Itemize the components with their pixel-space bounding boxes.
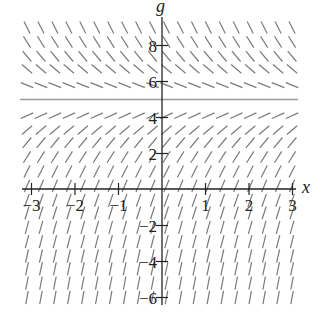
slope-segment — [192, 180, 197, 192]
slope-segment — [235, 277, 238, 290]
slope-segment — [80, 180, 85, 192]
slope-segment — [68, 291, 71, 304]
slope-segment — [233, 166, 239, 178]
slope-segment — [40, 277, 43, 290]
slope-segment — [106, 65, 116, 74]
slope-segment — [202, 113, 214, 119]
slope-segment — [53, 235, 56, 248]
slope-segment — [262, 207, 266, 220]
slope-segment — [122, 22, 128, 34]
slope-segment — [51, 138, 60, 148]
slope-segment — [275, 166, 281, 178]
slope-segment — [52, 22, 58, 34]
slope-segment — [110, 291, 112, 304]
slope-segment — [94, 180, 99, 192]
slope-segment — [66, 166, 72, 178]
slope-segment — [261, 166, 267, 178]
slope-segment — [79, 151, 86, 162]
slope-segment — [91, 83, 104, 88]
slope-segment — [150, 180, 155, 192]
slope-segment — [137, 235, 140, 248]
slope-segment — [79, 51, 88, 61]
slope-segment — [221, 291, 223, 304]
slope-segment — [202, 83, 215, 88]
slope-segment — [188, 113, 200, 119]
slope-segment — [207, 291, 210, 304]
x-axis-title: x — [301, 177, 310, 197]
x-tick-label: −2 — [66, 196, 84, 215]
slope-segment — [291, 250, 294, 263]
slope-segment — [275, 36, 282, 47]
slope-segment — [77, 83, 90, 88]
x-tick-label: −3 — [22, 196, 40, 215]
slope-segment — [67, 235, 70, 248]
slope-segment — [235, 235, 238, 248]
slope-segment — [109, 221, 113, 234]
slope-segment — [93, 151, 100, 162]
slope-segment — [122, 180, 127, 192]
slope-segment — [63, 113, 75, 119]
slope-segment — [38, 166, 44, 178]
slope-segment — [259, 126, 269, 135]
slope-segment — [40, 262, 43, 275]
slope-segment — [288, 138, 297, 148]
slope-segment — [53, 207, 57, 220]
slope-segment — [40, 291, 43, 304]
slope-segment — [92, 138, 101, 148]
y-tick-label: 6 — [149, 73, 158, 92]
slope-segment — [219, 166, 225, 178]
y-tick-label: 2 — [149, 145, 158, 164]
slope-segment — [178, 194, 183, 207]
slope-segment — [106, 126, 116, 135]
slope-segment — [38, 22, 44, 34]
slope-segment — [247, 22, 253, 34]
slope-segment — [134, 138, 143, 148]
slope-segment — [248, 221, 252, 234]
y-tick-label: −4 — [139, 253, 158, 272]
slope-segment — [165, 262, 168, 275]
slope-segment — [218, 138, 227, 148]
slope-segment — [164, 166, 170, 178]
slope-segment — [191, 151, 198, 162]
slope-segment — [235, 291, 238, 304]
slope-segment — [80, 22, 86, 34]
slope-segment — [248, 180, 253, 192]
slope-segment — [247, 166, 253, 178]
slope-segment — [26, 277, 29, 290]
slope-segment — [216, 83, 229, 88]
slope-segment — [174, 113, 186, 119]
slope-segment — [287, 126, 297, 135]
slope-segment — [261, 36, 268, 47]
slope-segment — [193, 262, 196, 275]
slope-segment — [35, 83, 48, 88]
slope-segment — [178, 180, 183, 192]
slope-segment — [37, 138, 46, 148]
slope-segment — [189, 126, 199, 135]
slope-segment — [286, 83, 299, 88]
slope-segment — [121, 36, 128, 47]
slope-segment — [234, 194, 239, 207]
slope-segment — [22, 65, 32, 74]
slope-segment — [22, 126, 32, 135]
slope-segment — [192, 194, 197, 207]
slope-segment — [205, 36, 212, 47]
slope-segment — [23, 36, 30, 47]
slope-segment — [234, 180, 239, 192]
slope-segment — [51, 36, 58, 47]
slope-segment — [263, 277, 266, 290]
slope-segment — [106, 51, 115, 61]
slope-segment — [263, 250, 266, 263]
slope-segment — [68, 277, 71, 290]
slope-segment — [231, 65, 241, 74]
slope-segment — [165, 221, 169, 234]
slope-segment — [24, 166, 30, 178]
slope-segment — [272, 113, 284, 119]
slope-segment — [95, 194, 100, 207]
slope-segment — [277, 250, 280, 263]
slope-segment — [205, 166, 211, 178]
slope-segment — [263, 291, 266, 304]
slope-segment — [26, 250, 29, 263]
slope-segment — [50, 126, 60, 135]
slope-segment — [109, 262, 112, 275]
slope-segment — [93, 36, 100, 47]
